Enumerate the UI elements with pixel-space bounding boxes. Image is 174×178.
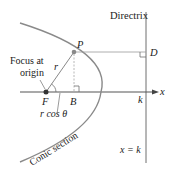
- conic-section-diagram: Directrix P D Focus at origin r F B r co…: [0, 0, 174, 178]
- segment-fp: [46, 52, 74, 92]
- conic-section-label: Conic section: [27, 129, 79, 167]
- x-axis-label: x: [159, 86, 165, 97]
- point-b-label: B: [70, 96, 77, 107]
- point-f-label: F: [41, 96, 49, 107]
- focus-label-line1: Focus at: [10, 55, 44, 66]
- directrix-label: Directrix: [110, 10, 149, 21]
- k-label: k: [138, 94, 143, 105]
- point-p-dot: [72, 50, 77, 55]
- r-cos-theta-label: r cos θ: [40, 108, 67, 119]
- x-axis-arrow-icon: [152, 90, 159, 95]
- right-angle-d-icon: [140, 52, 146, 57]
- point-p-label: P: [76, 39, 84, 50]
- right-angle-b-icon: [74, 86, 79, 92]
- focus-leader: [40, 80, 45, 89]
- focus-label-line2: origin: [20, 67, 44, 78]
- x-equals-k-label: x = k: [119, 144, 141, 155]
- point-d-label: D: [149, 47, 158, 58]
- r-label: r: [54, 61, 59, 72]
- point-f-dot: [44, 90, 49, 95]
- angle-theta-arc: [52, 84, 57, 92]
